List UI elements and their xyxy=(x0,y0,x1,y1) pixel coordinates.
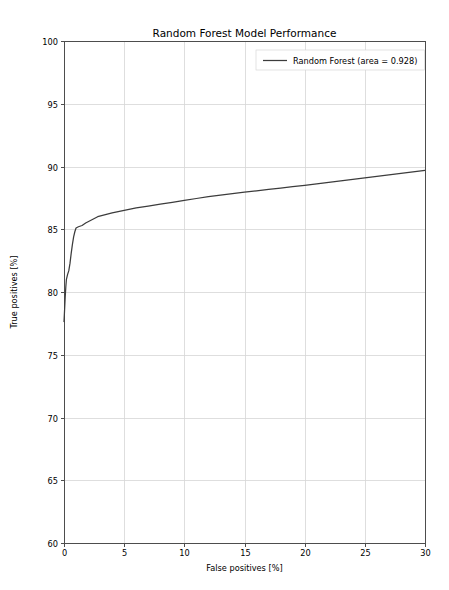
x-tick-label: 0 xyxy=(62,548,67,558)
y-tick-label: 65 xyxy=(48,476,58,486)
y-tick-label: 100 xyxy=(42,37,58,47)
x-tick-label: 25 xyxy=(360,548,370,558)
x-tick-label: 20 xyxy=(300,548,310,558)
roc-chart-svg: 6065707580859095100 051015202530 Random … xyxy=(0,0,449,590)
y-tick-label: 80 xyxy=(48,288,58,298)
y-axis-label: True positives [%] xyxy=(9,255,19,329)
y-tick-label: 75 xyxy=(48,351,58,361)
y-tick-label: 90 xyxy=(48,163,58,173)
x-tick-label: 10 xyxy=(179,548,189,558)
x-tick-label: 30 xyxy=(420,548,430,558)
chart-title: Random Forest Model Performance xyxy=(153,27,337,39)
x-tick-label: 5 xyxy=(122,548,127,558)
y-tick-label: 95 xyxy=(48,100,58,110)
y-tick-label: 85 xyxy=(48,225,58,235)
chart-figure: 6065707580859095100 051015202530 Random … xyxy=(0,0,449,590)
x-axis-label: False positives [%] xyxy=(206,563,282,573)
y-tick-label: 70 xyxy=(48,414,58,424)
y-tick-label: 60 xyxy=(48,539,58,549)
legend-entry-label: Random Forest (area = 0.928) xyxy=(293,56,417,66)
x-tick-label: 15 xyxy=(240,548,250,558)
plot-area-background xyxy=(64,41,425,543)
chart-legend[interactable]: Random Forest (area = 0.928) xyxy=(256,50,424,70)
